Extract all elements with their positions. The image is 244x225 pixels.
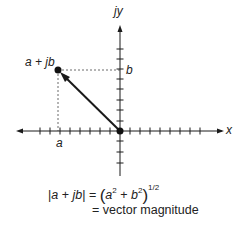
point-label: a + jb [25, 55, 55, 69]
formula-description: = vector magnitude [92, 203, 199, 217]
outer-exponent: 1/2 [148, 183, 159, 192]
x-axis-label: x [226, 123, 232, 137]
formula-jb: jb [72, 188, 82, 202]
formula-equals: = [85, 188, 99, 202]
x-axis-left-arrow-icon [16, 129, 23, 134]
y-axis-up-arrow-icon [118, 25, 123, 32]
formula-rhs-plus: + [117, 188, 131, 202]
vector-arrow [60, 72, 120, 131]
b-label: b [126, 63, 133, 77]
point-a-jb [55, 67, 62, 74]
formula-rhs-b: b [131, 188, 138, 202]
origin-point [117, 128, 124, 135]
formula-plus: + [58, 188, 72, 202]
y-axis-label: jy [114, 4, 123, 18]
a-label: a [56, 136, 63, 150]
y-axis [117, 25, 124, 176]
x-axis-right-arrow-icon [217, 129, 224, 134]
